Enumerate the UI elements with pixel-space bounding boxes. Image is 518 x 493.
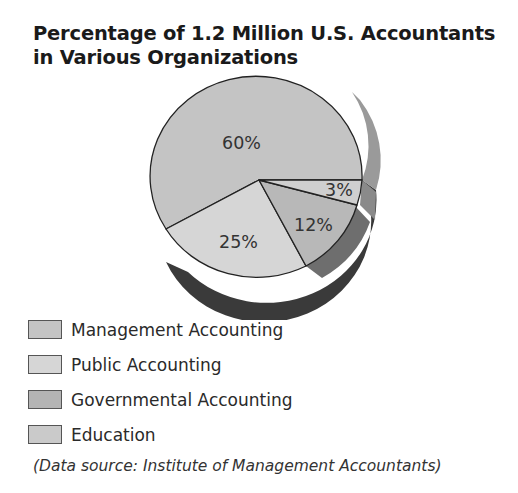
data-source-note: (Data source: Institute of Management Ac… [33, 457, 442, 475]
legend-label: Public Accounting [71, 355, 222, 375]
legend-swatch [28, 425, 62, 444]
legend-item-public: Public Accounting [28, 347, 293, 382]
legend-item-governmental: Governmental Accounting [28, 382, 293, 417]
legend-label: Management Accounting [71, 320, 283, 340]
pie-chart: 60% 25% 12% 3% [0, 0, 518, 320]
legend-item-education: Education [28, 417, 293, 452]
label-public: 25% [219, 232, 258, 252]
legend-swatch [28, 320, 62, 339]
legend-label: Education [71, 425, 156, 445]
label-governmental: 12% [294, 215, 333, 235]
legend: Management Accounting Public Accounting … [28, 312, 293, 452]
legend-swatch [28, 355, 62, 374]
label-management: 60% [222, 133, 261, 153]
legend-swatch [28, 390, 62, 409]
legend-item-management: Management Accounting [28, 312, 293, 347]
label-education: 3% [325, 180, 353, 200]
legend-label: Governmental Accounting [71, 390, 293, 410]
